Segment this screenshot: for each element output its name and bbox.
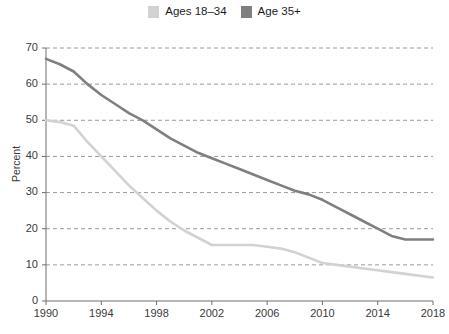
y-tick-label: 0 — [32, 294, 38, 306]
plot-area: 010203040506070 199019941998200220062010… — [0, 0, 449, 334]
y-tick-label: 40 — [26, 149, 38, 161]
gridlines — [46, 48, 433, 265]
series-line-age-35-plus — [46, 59, 433, 240]
y-axis-ticks: 010203040506070 — [26, 41, 46, 306]
x-axis-ticks: 19901994199820022006201020142018 — [34, 301, 445, 319]
y-tick-label: 60 — [26, 77, 38, 89]
x-tick-label: 2010 — [310, 307, 334, 319]
x-tick-label: 1994 — [89, 307, 113, 319]
axis-lines — [46, 48, 433, 301]
x-tick-label: 2006 — [255, 307, 279, 319]
y-tick-label: 50 — [26, 113, 38, 125]
line-chart: Ages 18–34 Age 35+ Percent 0102030405060… — [0, 0, 449, 334]
x-tick-label: 2014 — [365, 307, 389, 319]
x-tick-label: 2002 — [200, 307, 224, 319]
x-tick-label: 1990 — [34, 307, 58, 319]
data-series — [46, 59, 433, 278]
y-tick-label: 10 — [26, 258, 38, 270]
y-tick-label: 20 — [26, 222, 38, 234]
y-tick-label: 70 — [26, 41, 38, 53]
series-line-ages-18-34 — [46, 120, 433, 277]
x-tick-label: 2018 — [421, 307, 445, 319]
y-tick-label: 30 — [26, 185, 38, 197]
x-tick-label: 1998 — [144, 307, 168, 319]
